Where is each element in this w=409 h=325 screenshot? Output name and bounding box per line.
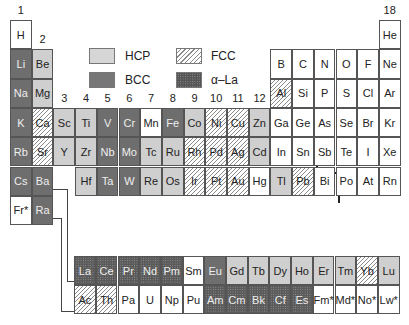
element-symbol: Tl xyxy=(277,175,286,187)
group-label-5: 5 xyxy=(97,92,119,104)
group-label-1: 1 xyxy=(10,4,32,16)
element-symbol: Eu xyxy=(208,265,221,277)
element-cell-sb: Sb xyxy=(314,137,336,166)
element-cell-pm: Pm xyxy=(161,256,183,285)
element-cell-he: He xyxy=(379,20,401,49)
element-cell-fm: Fm* xyxy=(313,285,335,314)
element-cell-rb: Rb xyxy=(10,137,32,166)
element-symbol: Si xyxy=(298,87,308,99)
element-symbol: Sb xyxy=(318,146,331,158)
element-symbol: S xyxy=(343,87,350,99)
element-symbol: Am xyxy=(207,294,224,306)
element-symbol: Mg xyxy=(35,87,50,99)
element-symbol: La xyxy=(79,265,91,277)
element-symbol: As xyxy=(318,117,331,129)
element-symbol: Cm xyxy=(228,294,245,306)
element-symbol: Ir xyxy=(191,175,198,187)
element-symbol: Y xyxy=(61,146,68,158)
element-cell-yb: Yb xyxy=(356,256,378,285)
group-label-12: 12 xyxy=(249,92,271,104)
element-symbol: Ce xyxy=(100,265,114,277)
element-symbol: Cu xyxy=(231,117,245,129)
element-symbol: Ag xyxy=(231,146,244,158)
element-symbol: Pa xyxy=(122,294,135,306)
group-label-11: 11 xyxy=(227,92,249,104)
element-cell-ag: Ag xyxy=(227,137,249,166)
element-cell-pt: Pt xyxy=(205,167,227,196)
element-cell-nd: Nd xyxy=(139,256,161,285)
element-symbol: Bk xyxy=(252,294,265,306)
element-cell-ba: Ba xyxy=(32,167,54,196)
element-symbol: In xyxy=(277,146,286,158)
element-cell-pa: Pa xyxy=(118,285,140,314)
element-cell-dy: Dy xyxy=(269,256,291,285)
element-symbol: Cl xyxy=(363,87,373,99)
element-cell-li: Li xyxy=(10,49,32,78)
element-cell-be: Be xyxy=(32,49,54,78)
element-cell-am: Am xyxy=(204,285,226,314)
element-cell-h: H xyxy=(10,20,32,49)
element-cell-f: F xyxy=(357,49,379,78)
element-symbol: Pt xyxy=(211,175,221,187)
element-symbol: Hg xyxy=(253,175,267,187)
element-cell-kr: Kr xyxy=(379,108,401,137)
element-cell-th: Th xyxy=(96,285,118,314)
element-symbol: Hf xyxy=(80,175,91,187)
group-label-7: 7 xyxy=(140,92,162,104)
element-cell-ru: Ru xyxy=(162,137,184,166)
element-cell-lw: Lw* xyxy=(378,285,400,314)
element-symbol: H xyxy=(17,29,25,41)
element-symbol: Nb xyxy=(101,146,115,158)
element-symbol: Ar xyxy=(384,87,395,99)
element-symbol: Xe xyxy=(383,146,396,158)
element-cell-k: K xyxy=(10,108,32,137)
element-symbol: Nd xyxy=(143,265,157,277)
element-symbol: Ni xyxy=(211,117,221,129)
element-cell-re: Re xyxy=(140,167,162,196)
element-symbol: Bi xyxy=(320,175,330,187)
actinide-connector xyxy=(61,296,74,312)
element-cell-o: O xyxy=(336,49,358,78)
element-symbol: Sm xyxy=(185,265,202,277)
element-symbol: Mo xyxy=(122,146,137,158)
element-cell-ac: Ac xyxy=(74,285,96,314)
element-symbol: Pd xyxy=(209,146,222,158)
group-label-6: 6 xyxy=(119,92,141,104)
element-symbol: Ca xyxy=(36,117,50,129)
element-cell-te: Te xyxy=(336,137,358,166)
element-symbol: Mn xyxy=(143,117,158,129)
element-symbol: Tc xyxy=(146,146,157,158)
element-symbol: Po xyxy=(340,175,353,187)
element-symbol: Dy xyxy=(274,265,287,277)
element-cell-na: Na xyxy=(10,79,32,108)
element-cell-ti: Ti xyxy=(75,108,97,137)
element-cell-la: La xyxy=(74,256,96,285)
element-cell-zn: Zn xyxy=(249,108,271,137)
element-symbol: Ba xyxy=(36,175,49,187)
element-symbol: Kr xyxy=(384,117,395,129)
element-cell-sc: Sc xyxy=(53,108,75,137)
element-symbol: Ra xyxy=(36,204,50,216)
element-symbol: Ho xyxy=(295,265,309,277)
element-cell-np: Np xyxy=(161,285,183,314)
element-symbol: N xyxy=(321,58,329,70)
element-symbol: Rh xyxy=(187,146,201,158)
element-cell-u: U xyxy=(139,285,161,314)
element-cell-v: V xyxy=(97,108,119,137)
element-cell-gd: Gd xyxy=(226,256,248,285)
element-cell-rn: Rn xyxy=(379,167,401,196)
element-symbol: Lu xyxy=(383,265,395,277)
element-symbol: W xyxy=(124,175,134,187)
element-cell-sr: Sr xyxy=(32,137,54,166)
element-cell-cf: Cf xyxy=(269,285,291,314)
element-symbol: Be xyxy=(36,58,49,70)
element-cell-cl: Cl xyxy=(357,79,379,108)
element-cell-w: W xyxy=(119,167,141,196)
element-cell-bi: Bi xyxy=(314,167,336,196)
element-symbol: Tm xyxy=(337,265,353,277)
element-cell-y: Y xyxy=(53,137,75,166)
element-symbol: Np xyxy=(165,294,179,306)
legend-label-fcc: FCC xyxy=(211,49,236,63)
element-cell-p: P xyxy=(314,79,336,108)
element-cell-fe: Fe xyxy=(162,108,184,137)
